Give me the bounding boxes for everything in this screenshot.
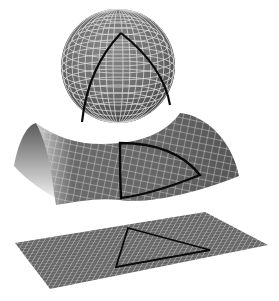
curvature-figure: [0, 0, 279, 301]
sphere: [61, 9, 175, 123]
plane: [15, 212, 268, 289]
figure-canvas: [0, 0, 279, 301]
saddle: [14, 113, 239, 205]
